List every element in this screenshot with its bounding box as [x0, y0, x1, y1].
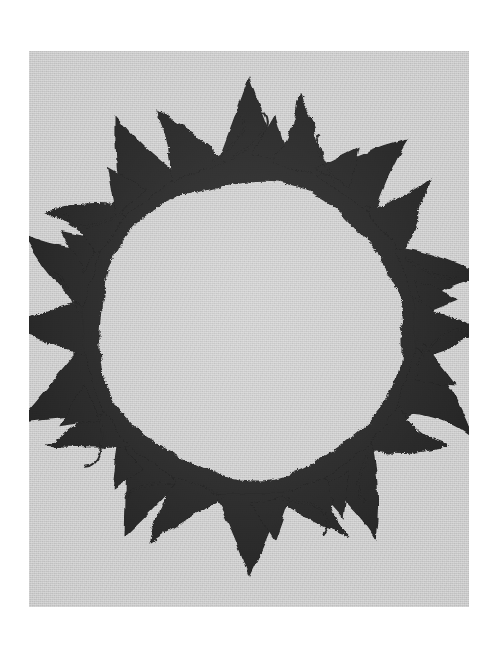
thorn-spike: [29, 300, 84, 358]
artwork-page: Thorn Ring Black ink on paper A circular…: [0, 0, 498, 657]
thorn-ring-artwork: [29, 51, 469, 607]
ink-ring-group: [29, 77, 469, 577]
scanned-paper-sheet: [29, 51, 469, 607]
